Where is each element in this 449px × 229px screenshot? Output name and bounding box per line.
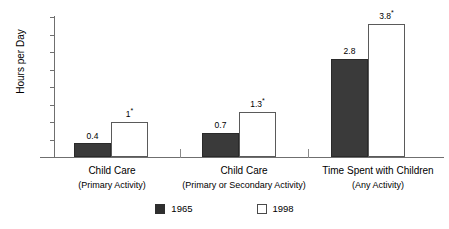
category-subtitle: (Primary Activity) xyxy=(48,178,176,192)
bar-1998-child-care-primary[interactable] xyxy=(111,122,148,157)
bar-label-value: 3.8 xyxy=(379,11,391,21)
category-separator-1 xyxy=(180,149,181,158)
y-tick-mark-2-5 xyxy=(50,70,54,71)
category-title: Child Care xyxy=(220,165,267,176)
significance-mark: * xyxy=(391,9,394,16)
bar-1965-child-care-primary-secondary[interactable] xyxy=(202,133,239,158)
category-label-child-care-primary-secondary: Child Care (Primary or Secondary Activit… xyxy=(176,163,312,192)
y-tick-mark-1-5 xyxy=(50,105,54,106)
category-label-child-care-primary: Child Care (Primary Activity) xyxy=(48,163,176,192)
bar-label-1965-child-care-primary-secondary: 0.7 xyxy=(202,120,239,130)
y-tick-mark-1 xyxy=(50,122,54,123)
y-axis-line xyxy=(54,16,55,158)
y-tick-mark-0-5 xyxy=(50,140,54,141)
bar-label-1998-time-spent-with-children: 3.8* xyxy=(368,11,405,21)
bar-1965-time-spent-with-children[interactable] xyxy=(331,59,368,157)
y-tick-mark-3-5 xyxy=(50,35,54,36)
legend-swatch-icon-1965 xyxy=(155,204,165,214)
bar-1965-child-care-primary[interactable] xyxy=(74,143,111,157)
category-subtitle: (Primary or Secondary Activity) xyxy=(176,178,312,192)
bar-chart: Hours per Day 4 3.5 3 2.5 2 1.5 1 0.5 0 xyxy=(0,0,449,229)
category-title: Time Spent with Children xyxy=(322,165,433,176)
significance-mark: * xyxy=(131,107,134,114)
bar-label-1965-child-care-primary: 0.4 xyxy=(74,131,111,141)
chart-legend: 1965 1998 xyxy=(0,203,449,214)
legend-item-1965[interactable]: 1965 xyxy=(155,203,192,214)
bar-label-1998-child-care-primary-secondary: 1.3* xyxy=(239,99,276,109)
x-axis-line xyxy=(40,157,444,158)
significance-mark: * xyxy=(262,97,265,104)
bar-label-1965-time-spent-with-children: 2.8 xyxy=(331,46,368,56)
y-tick-mark-3 xyxy=(50,52,54,53)
category-label-time-spent-with-children: Time Spent with Children (Any Activity) xyxy=(310,163,446,192)
category-title: Child Care xyxy=(88,165,135,176)
legend-swatch-icon-1998 xyxy=(257,204,267,214)
y-axis-title: Hours per Day xyxy=(15,2,26,122)
legend-label-1965: 1965 xyxy=(171,203,192,214)
bar-1998-time-spent-with-children[interactable] xyxy=(368,24,405,157)
bar-label-1998-child-care-primary: 1* xyxy=(111,109,148,119)
legend-label-1998: 1998 xyxy=(273,203,294,214)
y-tick-mark-0 xyxy=(50,157,54,158)
bar-1998-child-care-primary-secondary[interactable] xyxy=(239,112,276,158)
y-tick-mark-2 xyxy=(50,87,54,88)
legend-item-1998[interactable]: 1998 xyxy=(257,203,294,214)
bar-label-value: 1.3 xyxy=(250,99,262,109)
category-separator-2 xyxy=(308,149,309,158)
y-tick-mark-4 xyxy=(50,17,54,18)
category-subtitle: (Any Activity) xyxy=(310,178,446,192)
